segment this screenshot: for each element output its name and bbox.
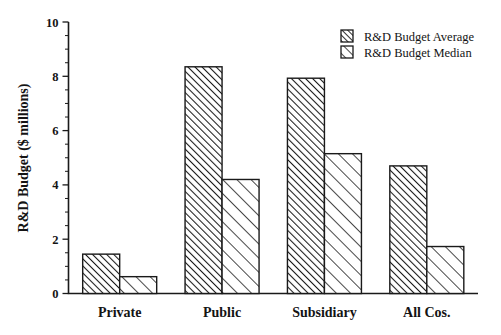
bar-all-cos-median: All Cos. — R&D Budget Median: 1.73 [427,247,464,294]
x-tick-label: Public [203,305,241,320]
hatch-dense-icon [341,30,353,42]
y-tick-label: 4 [52,178,59,192]
chart-canvas: 0246810 R&D Budget ($ millions) Private … [0,0,501,335]
bar-all-cos-average: All Cos. — R&D Budget Average: 4.7 [390,166,427,294]
bar-private-average: Private — R&D Budget Average: 1.45 [83,254,120,293]
bar-private-median: Private — R&D Budget Median: 0.62 [120,277,157,294]
x-tick-label: All Cos. [403,305,450,320]
legend-label: R&D Budget Average [364,30,475,44]
bar-subsidiary-median: Subsidiary — R&D Budget Median: 5.15 [324,154,361,294]
x-tick-label: Subsidiary [292,305,357,320]
y-tick-label: 8 [52,70,58,84]
bar-subsidiary-average: Subsidiary — R&D Budget Average: 7.93 [287,78,324,293]
bar-public-median: Public — R&D Budget Median: 4.2 [222,179,259,293]
bar-public-average: Public — R&D Budget Average: 8.35 [185,67,222,294]
y-tick-label: 2 [52,233,58,247]
hatch-sparse-icon [341,46,353,58]
y-tick-label: 10 [46,16,59,30]
y-axis-title: R&D Budget ($ millions) [16,83,32,232]
y-tick-label: 0 [52,287,58,301]
rd-budget-bar-chart: 0246810 R&D Budget ($ millions) Private … [0,0,501,335]
y-tick-label: 6 [52,124,58,138]
legend-label: R&D Budget Median [364,46,472,60]
x-tick-label: Private [98,305,142,320]
